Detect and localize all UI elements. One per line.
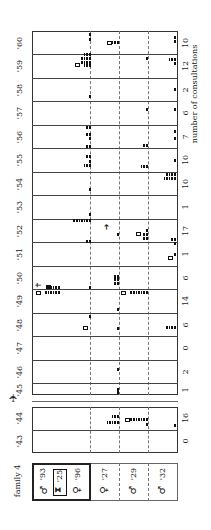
consultation-tick xyxy=(84,164,86,167)
year-label: '54 xyxy=(16,174,24,194)
consultation-tick xyxy=(50,291,52,294)
war-break-line xyxy=(32,401,178,402)
consultation-tick xyxy=(169,173,171,176)
consultation-tick xyxy=(89,219,91,222)
count-label: 1 xyxy=(182,197,190,217)
consultation-tick xyxy=(174,40,176,43)
consultation-tick xyxy=(114,421,116,424)
year-label: '60 xyxy=(16,33,24,53)
count-label: 2 xyxy=(182,80,190,100)
band-divider xyxy=(119,463,120,501)
consultation-tick xyxy=(141,165,143,168)
consultation-tick xyxy=(143,233,145,236)
consultation-tick xyxy=(89,315,91,318)
year-divider xyxy=(32,383,178,384)
consultation-tick xyxy=(146,229,148,232)
year-divider xyxy=(32,148,178,149)
count-label: 0 xyxy=(182,338,190,358)
year-label: '49 xyxy=(16,291,24,311)
consultation-tick xyxy=(174,177,176,180)
count-label: 6 xyxy=(182,268,190,288)
count-label: 12 xyxy=(182,56,190,76)
year-label: '51 xyxy=(16,244,24,264)
consultation-tick xyxy=(174,238,176,241)
consultation-tick xyxy=(50,286,52,289)
consultation-tick xyxy=(174,130,176,133)
consultation-tick xyxy=(174,242,176,245)
band-divider xyxy=(148,31,149,395)
year-label: '53 xyxy=(16,197,24,217)
consultation-tick xyxy=(130,418,132,421)
family-title: family 4 xyxy=(14,461,22,501)
year-divider xyxy=(32,219,178,220)
year-label: '55 xyxy=(16,150,24,170)
year-divider xyxy=(32,242,178,243)
count-label: 2 xyxy=(182,362,190,382)
open-square-marker xyxy=(83,326,88,330)
open-square-marker xyxy=(36,291,41,295)
year-divider xyxy=(32,313,178,314)
year-label: '56 xyxy=(16,127,24,147)
consultation-tick xyxy=(169,58,171,61)
consultation-tick xyxy=(174,108,176,111)
consultation-tick xyxy=(117,368,119,371)
consultation-tick xyxy=(86,133,88,136)
consultation-tick xyxy=(89,145,91,148)
consultation-tick xyxy=(89,53,91,56)
year-label: '44 xyxy=(16,408,24,428)
consultation-tick xyxy=(117,421,119,424)
consultation-tick xyxy=(138,291,140,294)
open-square-marker xyxy=(121,291,126,295)
year-divider xyxy=(32,336,178,337)
consultation-tick xyxy=(86,145,88,148)
consultation-tick xyxy=(146,237,148,240)
year-label: '48 xyxy=(16,315,24,335)
member-born: '27 xyxy=(101,466,109,482)
consultation-tick xyxy=(174,88,176,91)
cross-icon: ✝ xyxy=(34,282,44,289)
consultation-tick xyxy=(141,291,143,294)
consultation-tick xyxy=(107,421,109,424)
consultation-tick xyxy=(89,38,91,41)
consultation-tick xyxy=(86,53,88,56)
consultation-tick xyxy=(143,237,145,240)
consultation-tick xyxy=(73,219,75,222)
consultation-tick xyxy=(114,282,116,285)
consultation-tick xyxy=(143,165,145,168)
consultation-tick xyxy=(136,418,138,421)
consultation-tick xyxy=(86,64,88,67)
consultation-tick xyxy=(164,177,166,180)
count-label: 14 xyxy=(182,291,190,311)
consultation-tick xyxy=(84,219,86,222)
consultation-tick xyxy=(48,291,50,294)
count-label: 10 xyxy=(182,33,190,53)
consultation-tick xyxy=(53,291,55,294)
consultation-tick xyxy=(174,159,176,162)
year-divider xyxy=(32,266,178,267)
open-square-marker xyxy=(125,418,130,422)
year-label: '50 xyxy=(16,268,24,288)
consultation-tick xyxy=(114,415,116,418)
consultation-tick xyxy=(89,137,91,140)
consultation-tick xyxy=(143,291,145,294)
consultation-tick xyxy=(55,291,57,294)
consultation-tick xyxy=(136,291,138,294)
count-label: 10 xyxy=(182,174,190,194)
member-born: '93 xyxy=(39,466,47,482)
consultation-tick xyxy=(89,160,91,163)
year-label: '47 xyxy=(16,338,24,358)
consultation-tick xyxy=(117,391,119,394)
consultation-tick xyxy=(143,418,145,421)
year-divider xyxy=(32,54,178,55)
year-label: '58 xyxy=(16,80,24,100)
consultation-tick xyxy=(174,173,176,176)
consultation-tick xyxy=(117,415,119,418)
year-label: '52 xyxy=(16,221,24,241)
count-label: 6 xyxy=(182,103,190,123)
consultation-tick xyxy=(53,286,55,289)
plane-icon: ✈ xyxy=(9,393,19,402)
consultation-tick xyxy=(112,415,114,418)
year-divider xyxy=(32,289,178,290)
consultation-tick xyxy=(174,424,176,427)
count-label: 1 xyxy=(182,380,190,400)
